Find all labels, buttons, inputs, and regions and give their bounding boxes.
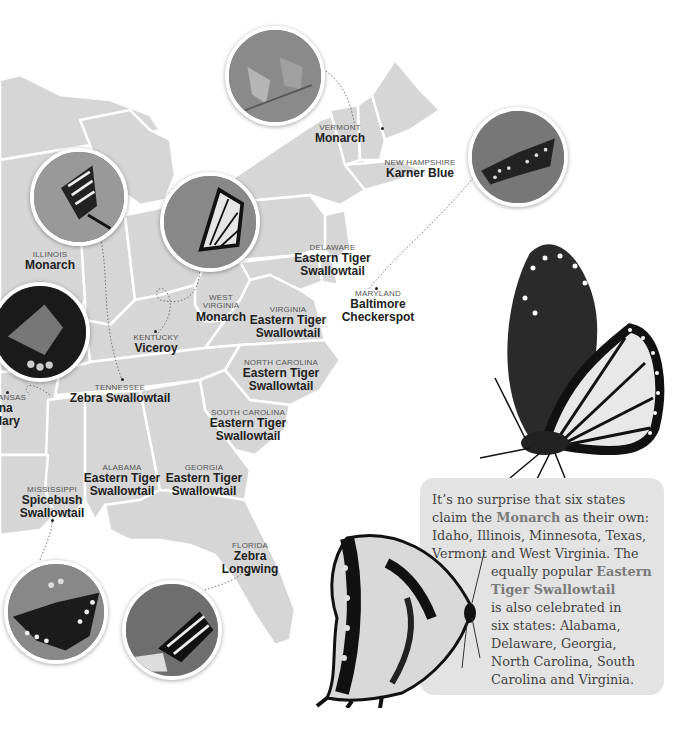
vermont-location-dot <box>381 127 384 130</box>
state-label-georgia: GEORGIA Eastern Tiger Swallowtail <box>164 464 244 498</box>
eastern-tiger-highlight: Eastern <box>596 564 651 579</box>
callout-text-lower: equally popular Eastern Tiger Swallowtai… <box>491 563 671 689</box>
spicebush-swallowtail-photo <box>4 560 108 664</box>
state-label-new-hampshire: NEW HAMPSHIRE Karner Blue <box>375 159 465 180</box>
state-label-north-carolina: NORTH CAROLINA Eastern Tiger Swallowtail <box>236 359 326 393</box>
state-label-alabama: ALABAMA Eastern Tiger Swallowtail <box>82 464 162 498</box>
state-label-vermont: VERMONT Monarch <box>300 124 380 145</box>
state-label-illinois: ILLINOIS Monarch <box>20 251 80 272</box>
state-label-maryland: MARYLAND Baltimore Checkerspot <box>338 290 418 324</box>
tennessee-location-dot <box>121 378 124 381</box>
zebra-longwing-photo <box>122 580 222 680</box>
state-label-florida: FLORIDA Zebra Longwing <box>220 542 280 576</box>
state-label-tennessee: TENNESSEE Zebra Swallowtail <box>60 384 180 405</box>
state-label-south-carolina: SOUTH CAROLINA Eastern Tiger Swallowtail <box>205 409 291 443</box>
tiger-swallowtail-illustration <box>312 518 487 708</box>
state-label-west-virginia: WEST VIRGINIA Monarch <box>193 294 249 323</box>
state-label-delaware: DELAWARE Eastern Tiger Swallowtail <box>290 244 375 278</box>
zebra-swallowtail-photo <box>30 148 128 246</box>
viceroy-photo <box>160 172 260 272</box>
baltimore-checkerspot-photo <box>468 107 568 207</box>
karner-blue-photo <box>225 26 325 126</box>
state-label-kentucky: KENTUCKY Viceroy <box>126 334 186 355</box>
tiger-swallowtail-highlight: Tiger Swallowtail <box>491 581 671 599</box>
state-label-arkansas: ANSAS ana illary <box>0 394 32 428</box>
state-label-mississippi: MISSISSIPPI Spicebush Swallowtail <box>16 486 88 520</box>
monarch-highlight: Monarch <box>496 510 560 525</box>
state-label-virginia: VIRGINIA Eastern Tiger Swallowtail <box>248 306 328 340</box>
monarch-illustration <box>455 238 665 498</box>
